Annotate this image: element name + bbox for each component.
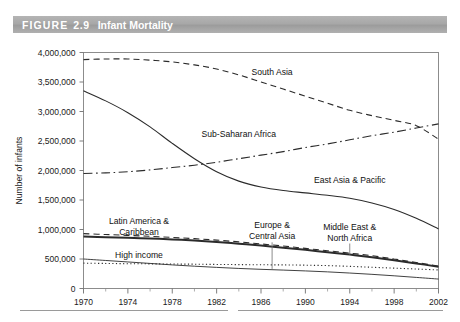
y-axis-title: Number of infants (14, 137, 24, 205)
y-axis-tick-label: 1,500,000 (38, 195, 76, 205)
x-axis-tick-label: 1970 (74, 297, 93, 307)
series-label: East Asia & Pacific (314, 175, 386, 185)
figure-container: FIGURE 2.9 Infant Mortality 0500,0001,00… (0, 0, 460, 322)
series-label: Caribbean (119, 227, 159, 237)
x-axis-tick-label: 1990 (296, 297, 315, 307)
x-axis-tick-label: 1994 (340, 297, 359, 307)
y-axis-tick-label: 2,500,000 (38, 136, 76, 146)
series-line (84, 259, 439, 279)
y-axis-tick-label: 1,000,000 (38, 225, 76, 235)
y-axis-tick-label: 2,000,000 (38, 166, 76, 176)
y-axis-tick-label: 500,000 (45, 254, 76, 264)
series-label: High income (115, 250, 163, 260)
series-label: Middle East & (323, 222, 376, 232)
y-axis-tick-label: 4,000,000 (38, 48, 76, 58)
y-axis-tick-label: 3,500,000 (38, 77, 76, 87)
series-label: South Asia (252, 67, 293, 77)
y-axis-tick-label: 3,000,000 (38, 107, 76, 117)
series-line (84, 91, 439, 229)
x-axis-tick-label: 1978 (163, 297, 182, 307)
series-label: Sub-Saharan Africa (202, 129, 277, 139)
series-label: Central Asia (249, 231, 296, 241)
y-axis-tick-label: 0 (71, 284, 76, 294)
series-label: North Africa (327, 233, 372, 243)
x-axis-tick-label: 2002 (429, 297, 448, 307)
series-label: Latin America & (109, 216, 169, 226)
infant-mortality-line-chart: 0500,0001,000,0001,500,0002,000,0002,500… (0, 0, 460, 322)
x-axis-tick-label: 1998 (385, 297, 404, 307)
x-axis-tick-label: 1974 (118, 297, 137, 307)
x-axis-tick-label: 1986 (252, 297, 271, 307)
x-axis-tick-label: 1982 (207, 297, 226, 307)
series-label: Europe & (254, 220, 290, 230)
